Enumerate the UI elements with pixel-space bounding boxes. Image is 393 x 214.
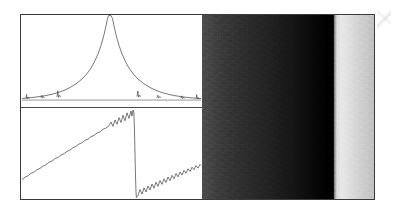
spectrum-spike-artifacts: [26, 91, 199, 99]
spectrum-plot-svg: [21, 15, 202, 107]
plot-column: [21, 15, 202, 199]
grayscale-noise-layer-2: [202, 15, 375, 199]
phase-ramp-segment-1: [22, 110, 134, 180]
phase-wrap-discontinuity: [134, 112, 137, 198]
spectrum-plot: [21, 15, 202, 108]
phase-ramp-plot-svg: [21, 109, 202, 200]
figure-panel: [20, 14, 375, 200]
scan-artifact-smudge: [377, 8, 391, 30]
phase-ramp-segment-2: [136, 164, 201, 197]
grayscale-image-panel: [202, 15, 375, 199]
phase-ramp-plot: [21, 109, 202, 200]
spectrum-trace: [22, 16, 201, 99]
